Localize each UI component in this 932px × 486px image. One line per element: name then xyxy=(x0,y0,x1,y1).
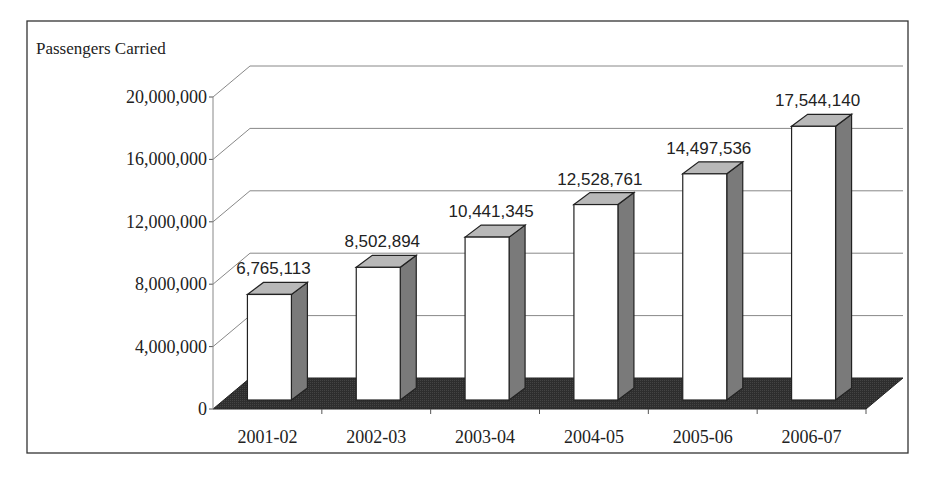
x-tick-label: 2006-07 xyxy=(782,427,842,447)
bar-face xyxy=(356,267,400,400)
data-label: 17,544,140 xyxy=(775,91,860,110)
bar-side xyxy=(836,114,852,400)
x-tick-label: 2005-06 xyxy=(673,427,733,447)
data-label: 6,765,113 xyxy=(236,259,310,278)
y-tick-label: 20,000,000 xyxy=(126,87,207,107)
x-tick-label: 2003-04 xyxy=(455,427,515,447)
data-label: 10,441,345 xyxy=(449,202,534,221)
data-label: 12,528,761 xyxy=(557,170,642,189)
y-axis-title: Passengers Carried xyxy=(36,39,166,58)
bar-face xyxy=(792,126,836,400)
bar-side xyxy=(727,162,743,400)
bar-side xyxy=(618,193,634,400)
y-tick-label: 16,000,000 xyxy=(126,149,207,169)
bar-face xyxy=(574,205,618,400)
bar-face xyxy=(465,237,509,400)
data-label: 8,502,894 xyxy=(344,232,420,251)
bar-face xyxy=(247,294,291,400)
y-tick-label: 0 xyxy=(198,399,207,419)
bar-side xyxy=(400,255,416,400)
y-tick-label: 12,000,000 xyxy=(126,212,207,232)
y-tick-label: 8,000,000 xyxy=(135,274,207,294)
bar-face xyxy=(683,174,727,400)
bar-side xyxy=(509,225,525,400)
x-tick-label: 2001-02 xyxy=(237,427,297,447)
passengers-carried-chart: Passengers Carried 04,000,0008,000,00012… xyxy=(0,0,932,486)
y-tick-label: 4,000,000 xyxy=(135,337,207,357)
x-tick-label: 2002-03 xyxy=(346,427,406,447)
x-tick-label: 2004-05 xyxy=(564,427,624,447)
bar-side xyxy=(291,282,307,400)
data-label: 14,497,536 xyxy=(666,139,751,158)
